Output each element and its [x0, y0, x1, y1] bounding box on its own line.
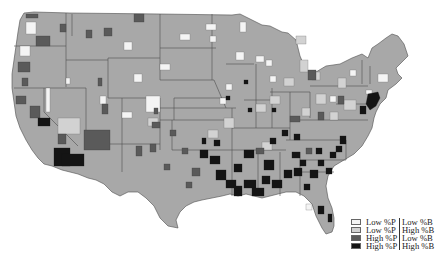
legend-b-label: High %B — [402, 242, 434, 250]
legend-swatch-icon — [351, 235, 361, 241]
legend-swatch-icon — [351, 219, 361, 225]
legend-swatch-icon — [351, 243, 361, 249]
legend-item-high-p-high-b: High %P High %B — [351, 242, 447, 250]
legend-p-label: High %P — [366, 242, 397, 250]
legend: Low %P Low %B Low %P High %B High %P Low… — [351, 218, 447, 250]
legend-swatch-icon — [351, 227, 361, 233]
